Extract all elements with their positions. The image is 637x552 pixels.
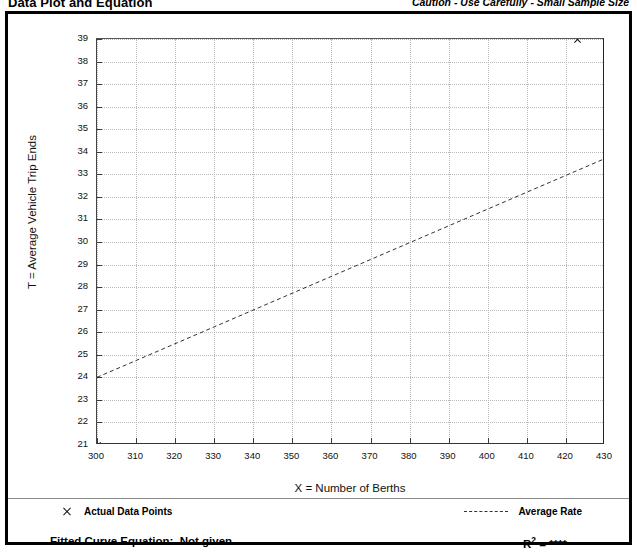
y-axis-tick	[97, 174, 102, 175]
x-axis-tick	[331, 438, 332, 443]
y-axis-tick	[97, 197, 102, 198]
y-axis-tick-label: 23	[64, 393, 88, 404]
gridline-horizontal	[97, 152, 603, 153]
gridline-horizontal	[97, 107, 603, 108]
y-axis-tick	[97, 265, 102, 266]
y-axis-tick	[97, 355, 102, 356]
gridline-vertical	[410, 39, 411, 443]
page-title: Data Plot and Equation	[8, 0, 152, 10]
y-axis-tick	[97, 377, 102, 378]
chart-panel: 3003103203303403503603703803904004104204…	[5, 11, 632, 545]
gridline-horizontal	[97, 287, 603, 288]
legend-label-average-rate: Average Rate	[518, 506, 582, 517]
x-axis-title: X = Number of Berths	[96, 482, 604, 494]
x-axis-tick	[253, 438, 254, 443]
y-axis-tick-label: 33	[64, 167, 88, 178]
x-axis-tick	[97, 438, 98, 443]
gridline-horizontal	[97, 242, 603, 243]
y-axis-tick-label: 37	[64, 77, 88, 88]
y-axis-title: T = Average Vehicle Trip Ends	[26, 42, 38, 382]
y-axis-tick-label: 30	[64, 235, 88, 246]
fitted-curve-equation: Fitted Curve Equation: Not given	[50, 535, 232, 547]
x-axis-tick	[410, 438, 411, 443]
y-axis-tick-label: 27	[64, 303, 88, 314]
x-axis-tick	[292, 438, 293, 443]
y-axis-tick-label: 38	[64, 55, 88, 66]
gridline-horizontal	[97, 332, 603, 333]
gridline-vertical	[488, 39, 489, 443]
x-axis-tick-label: 360	[310, 450, 350, 461]
gridline-vertical	[253, 39, 254, 443]
y-axis-tick-label: 21	[64, 438, 88, 449]
legend-item-actual-data-points: Actual Data Points	[62, 506, 172, 517]
gridline-vertical	[371, 39, 372, 443]
y-axis-tick-label: 32	[64, 190, 88, 201]
y-axis-tick	[97, 39, 102, 40]
x-axis-tick	[527, 438, 528, 443]
x-axis-tick	[214, 438, 215, 443]
gridline-horizontal	[97, 400, 603, 401]
legend-divider	[8, 498, 629, 499]
y-axis-tick	[97, 332, 102, 333]
gridline-vertical	[175, 39, 176, 443]
plot-frame	[96, 38, 604, 444]
x-axis-tick-label: 370	[350, 450, 390, 461]
x-axis-tick	[449, 438, 450, 443]
x-axis-tick-label: 420	[545, 450, 585, 461]
gridline-vertical	[136, 39, 137, 443]
x-axis-tick-label: 340	[232, 450, 272, 461]
x-axis-tick-label: 320	[154, 450, 194, 461]
gridline-horizontal	[97, 174, 603, 175]
gridline-vertical	[292, 39, 293, 443]
y-axis-tick	[97, 310, 102, 311]
gridline-horizontal	[97, 219, 603, 220]
x-axis-tick-label: 380	[389, 450, 429, 461]
gridline-horizontal	[97, 310, 603, 311]
gridline-vertical	[331, 39, 332, 443]
y-axis-tick-label: 36	[64, 100, 88, 111]
gridline-horizontal	[97, 197, 603, 198]
r-squared-value: R2 = ****	[523, 535, 567, 550]
gridline-vertical	[97, 39, 98, 443]
y-axis-tick-label: 22	[64, 415, 88, 426]
x-axis-tick-label: 350	[271, 450, 311, 461]
y-axis-tick	[97, 84, 102, 85]
legend-item-average-rate: Average Rate	[464, 506, 582, 517]
caution-note: Caution - Use Carefully - Small Sample S…	[412, 0, 629, 8]
chart-plot-area: 3003103203303403503603703803904004104204…	[96, 38, 604, 444]
x-axis-tick-label: 410	[506, 450, 546, 461]
chart-legend: Actual Data Points Average Rate	[8, 506, 629, 524]
x-axis-tick	[136, 438, 137, 443]
gridline-horizontal	[97, 377, 603, 378]
y-axis-tick-label: 29	[64, 258, 88, 269]
gridline-horizontal	[97, 39, 603, 40]
y-axis-tick	[97, 287, 102, 288]
y-axis-tick	[97, 400, 102, 401]
gridline-horizontal	[97, 62, 603, 63]
y-axis-tick-label: 24	[64, 370, 88, 381]
x-axis-tick-label: 400	[467, 450, 507, 461]
y-axis-tick	[97, 107, 102, 108]
gridline-horizontal	[97, 355, 603, 356]
gridline-vertical	[566, 39, 567, 443]
y-axis-tick-label: 28	[64, 280, 88, 291]
gridline-horizontal	[97, 422, 603, 423]
x-axis-tick-label: 390	[428, 450, 468, 461]
y-axis-tick-label: 34	[64, 145, 88, 156]
legend-label-actual-data-points: Actual Data Points	[84, 506, 172, 517]
gridline-horizontal	[97, 129, 603, 130]
x-axis-tick	[175, 438, 176, 443]
gridline-vertical	[214, 39, 215, 443]
gridline-horizontal	[97, 265, 603, 266]
y-axis-tick	[97, 62, 102, 63]
y-axis-tick	[97, 129, 102, 130]
x-axis-tick-label: 330	[193, 450, 233, 461]
x-axis-tick	[488, 438, 489, 443]
x-axis-tick	[566, 438, 567, 443]
y-axis-tick	[97, 242, 102, 243]
dashed-line-icon	[464, 511, 508, 512]
y-axis-tick-label: 25	[64, 348, 88, 359]
x-axis-tick-label: 310	[115, 450, 155, 461]
gridline-vertical	[449, 39, 450, 443]
x-axis-tick-label: 300	[76, 450, 116, 461]
